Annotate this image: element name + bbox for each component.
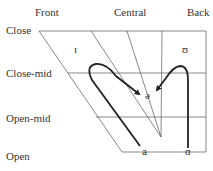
vowel-schwa: ə: [145, 90, 150, 101]
vowel-open-back: ɑ: [185, 146, 191, 157]
glide-front: [89, 64, 140, 146]
vowel-near-close-front: ɪ: [74, 44, 77, 55]
vowel-open-front: a: [142, 146, 147, 157]
vowel-chart-grid: [0, 0, 213, 171]
vowel-near-close-back: ʊ: [182, 44, 188, 55]
